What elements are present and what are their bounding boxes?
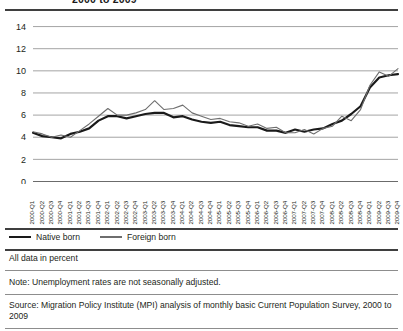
unemployment-line-chart: 02468101214	[0, 14, 403, 184]
y-axis-tick-14: 14	[16, 22, 26, 32]
x-axis-tick-2001-Q4: 2001-Q4	[94, 201, 100, 224]
y-axis-tick-12: 12	[16, 44, 26, 54]
x-axis-tick-2005-Q1: 2005-Q1	[216, 201, 222, 224]
y-axis-tick-4: 4	[21, 132, 26, 142]
divider-below-legend	[5, 249, 398, 251]
divider-above-legend	[5, 228, 398, 230]
x-axis-tick-2003-Q1: 2003-Q1	[141, 201, 147, 224]
infographic-page: 2000 to 2009 02468101214 2000-Q12000-Q22…	[0, 0, 403, 331]
legend-label-native: Native born	[36, 232, 80, 242]
source-text: Source: Migration Policy Institute (MPI)…	[9, 300, 394, 322]
x-axis-tick-2000-Q4: 2000-Q4	[57, 201, 63, 224]
x-axis-tick-2003-Q2: 2003-Q2	[151, 201, 157, 224]
series-line-native-born	[33, 74, 398, 138]
divider-top	[5, 9, 398, 11]
x-axis-tick-2008-Q3: 2008-Q3	[347, 201, 353, 224]
x-axis-tick-2001-Q2: 2001-Q2	[76, 201, 82, 224]
all-data-percent-text: All data in percent	[9, 253, 78, 264]
x-axis-tick-2000-Q2: 2000-Q2	[38, 201, 44, 224]
x-axis-tick-2001-Q3: 2001-Q3	[85, 201, 91, 224]
divider-above-note	[5, 270, 398, 271]
chart-y-axis-labels: 02468101214	[16, 22, 26, 184]
x-axis-tick-2007-Q1: 2007-Q1	[291, 201, 297, 224]
x-axis-tick-2002-Q2: 2002-Q2	[113, 201, 119, 224]
x-axis-tick-2007-Q2: 2007-Q2	[300, 201, 306, 224]
y-axis-tick-0: 0	[21, 177, 26, 184]
series-line-foreign-born	[33, 69, 398, 138]
x-axis-tick-2006-Q1: 2006-Q1	[254, 201, 260, 224]
x-axis-tick-2009-Q4: 2009-Q4	[394, 201, 400, 224]
x-axis-tick-2000-Q3: 2000-Q3	[48, 201, 54, 224]
x-axis-tick-2003-Q4: 2003-Q4	[169, 201, 175, 224]
x-axis-tick-2009-Q2: 2009-Q2	[375, 201, 381, 224]
x-axis-tick-2006-Q2: 2006-Q2	[263, 201, 269, 224]
x-axis-tick-2002-Q1: 2002-Q1	[104, 201, 110, 224]
x-axis-tick-2001-Q1: 2001-Q1	[66, 201, 72, 224]
x-axis-tick-2005-Q2: 2005-Q2	[225, 201, 231, 224]
x-axis-tick-2008-Q1: 2008-Q1	[328, 201, 334, 224]
legend-item-native-born: Native born	[9, 232, 80, 242]
y-axis-tick-6: 6	[21, 110, 26, 120]
chart-gridlines	[33, 27, 398, 182]
y-axis-tick-2: 2	[21, 155, 26, 165]
x-axis-tick-2002-Q3: 2002-Q3	[122, 201, 128, 224]
chart-title-strip: 2000 to 2009	[0, 0, 403, 9]
x-axis-tick-2004-Q2: 2004-Q2	[188, 201, 194, 224]
x-axis-tick-2006-Q4: 2006-Q4	[282, 201, 288, 224]
x-axis-tick-2004-Q3: 2004-Q3	[197, 201, 203, 224]
x-axis-tick-2005-Q3: 2005-Q3	[235, 201, 241, 224]
x-axis-tick-2004-Q4: 2004-Q4	[207, 201, 213, 224]
x-axis-tick-2002-Q4: 2002-Q4	[132, 201, 138, 224]
y-axis-tick-10: 10	[16, 66, 26, 76]
x-axis-tick-2005-Q4: 2005-Q4	[244, 201, 250, 224]
x-axis-tick-2007-Q4: 2007-Q4	[319, 201, 325, 224]
x-axis-tick-2008-Q2: 2008-Q2	[338, 201, 344, 224]
x-axis-tick-2004-Q1: 2004-Q1	[179, 201, 185, 224]
chart-x-axis-labels: 2000-Q12000-Q22000-Q32000-Q42001-Q12001-…	[0, 184, 403, 224]
chart-legend: Native born Foreign born	[0, 231, 403, 247]
x-axis-tick-2009-Q1: 2009-Q1	[366, 201, 372, 224]
chart-plot-area: 02468101214	[0, 14, 403, 184]
note-text: Note: Unemployment rates are not seasona…	[9, 277, 221, 288]
divider-above-source	[5, 294, 398, 295]
x-axis-tick-2008-Q4: 2008-Q4	[356, 201, 362, 224]
divider-bottom	[5, 328, 398, 329]
y-axis-tick-8: 8	[21, 88, 26, 98]
chart-series-layer	[33, 69, 398, 139]
x-axis-tick-2006-Q3: 2006-Q3	[272, 201, 278, 224]
legend-label-foreign: Foreign born	[127, 232, 176, 242]
x-axis-tick-2007-Q3: 2007-Q3	[310, 201, 316, 224]
page-title: 2000 to 2009	[72, 0, 137, 5]
line-swatch-icon-foreign	[100, 236, 122, 237]
x-axis-tick-2009-Q3: 2009-Q3	[385, 201, 391, 224]
x-axis-tick-2000-Q1: 2000-Q1	[29, 201, 35, 224]
x-axis-tick-2003-Q3: 2003-Q3	[160, 201, 166, 224]
line-swatch-icon-native	[9, 236, 31, 238]
legend-item-foreign-born: Foreign born	[100, 232, 176, 242]
